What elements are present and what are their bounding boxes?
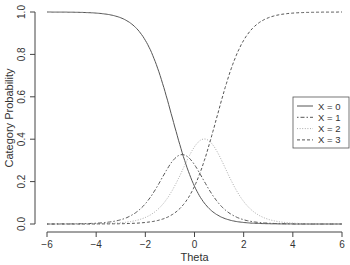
legend-label: X = 0 bbox=[318, 101, 340, 112]
y-tick-label: 0.4 bbox=[16, 132, 27, 146]
x-tick-label: 4 bbox=[290, 239, 296, 250]
y-axis-label: Category Probability bbox=[3, 68, 15, 168]
series-line-x2 bbox=[47, 139, 342, 224]
series-line-x1 bbox=[47, 155, 342, 224]
x-tick-label: −4 bbox=[90, 239, 102, 250]
y-tick-label: 0.6 bbox=[16, 89, 27, 103]
y-tick-label: 1.0 bbox=[16, 5, 27, 19]
y-tick-label: 0.2 bbox=[16, 174, 27, 188]
y-tick-label: 0.8 bbox=[16, 47, 27, 61]
x-axis: −6−4−20246 bbox=[41, 232, 345, 250]
legend: X = 0X = 1X = 2X = 3 bbox=[293, 97, 349, 148]
x-tick-label: −6 bbox=[41, 239, 53, 250]
category-probability-chart: 0.00.20.40.60.81.0 Category Probability … bbox=[0, 0, 350, 265]
legend-label: X = 1 bbox=[318, 112, 340, 123]
x-tick-label: −2 bbox=[140, 239, 152, 250]
y-tick-label: 0.0 bbox=[16, 217, 27, 231]
y-axis: 0.00.20.40.60.81.0 bbox=[16, 5, 35, 231]
x-axis-label: Theta bbox=[180, 251, 209, 263]
legend-label: X = 3 bbox=[318, 134, 340, 145]
x-tick-label: 2 bbox=[241, 239, 247, 250]
x-tick-label: 6 bbox=[339, 239, 345, 250]
x-tick-label: 0 bbox=[192, 239, 198, 250]
legend-label: X = 2 bbox=[318, 123, 340, 134]
